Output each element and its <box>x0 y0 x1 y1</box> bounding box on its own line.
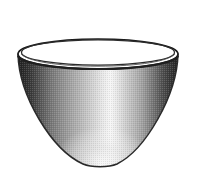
bowl-illustration <box>0 0 198 179</box>
illustration-canvas: Paraboloid bowl Grayscale drawing of an … <box>0 0 198 179</box>
bowl-rim <box>18 39 178 69</box>
